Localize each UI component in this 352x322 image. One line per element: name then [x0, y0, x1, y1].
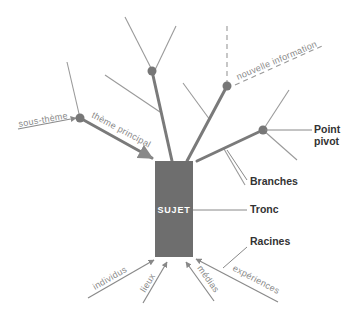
racines-label: Racines [250, 235, 290, 247]
trunk-label: SUJET [157, 205, 190, 215]
branches-label: Branches [250, 175, 298, 187]
tronc-label: Tronc [250, 203, 279, 215]
node-main [148, 67, 157, 76]
point-pivot-label-2: pivot [314, 135, 340, 147]
root-label-medias: médias [195, 263, 221, 294]
thin-branches [67, 17, 297, 185]
callout-lines [193, 130, 312, 268]
nouvelle-information-label: nouvelle information [235, 39, 319, 82]
node-sous-theme [76, 114, 85, 123]
knowledge-tree-diagram: SUJET Point pivot Branches Tronc Racines… [0, 0, 352, 322]
sous-theme-label: sous-thème [18, 110, 69, 129]
point-pivot-label-1: Point [314, 123, 341, 135]
node-new-info [223, 82, 232, 91]
